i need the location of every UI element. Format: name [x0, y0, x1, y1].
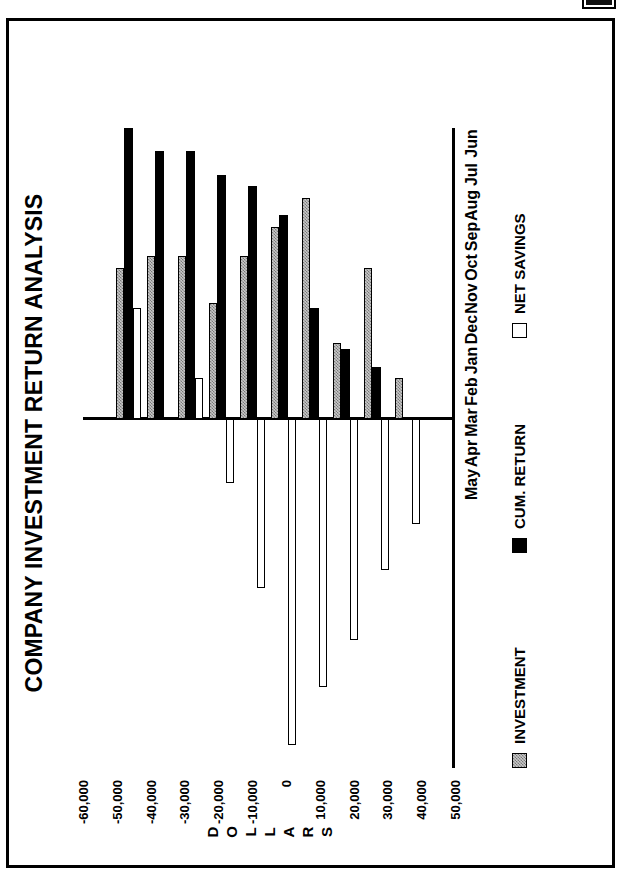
bar-jan-investment	[209, 303, 217, 419]
chart-title: COMPANY INVESTMENT RETURN ANALYSIS	[21, 22, 48, 864]
category-label-dec: Dec	[463, 314, 481, 345]
bar-group	[300, 128, 331, 768]
bar-aug-cumreturn	[372, 367, 380, 419]
bar-oct-investment	[302, 198, 310, 419]
bar-apr-cumreturn	[124, 128, 132, 419]
chart-area: COMPANY INVESTMENT RETURN ANALYSIS DOLLA…	[11, 22, 611, 864]
chart-page: COMPANY INVESTMENT RETURN ANALYSIS DOLLA…	[0, 0, 621, 876]
bar-aug-netsavings	[380, 419, 388, 570]
net-savings-swatch-icon	[512, 323, 527, 338]
y-tick-label: -60,000	[75, 780, 90, 824]
bar-dec-netsavings	[256, 419, 264, 588]
bar-oct-netsavings	[318, 419, 326, 687]
bar-sep-investment	[333, 343, 341, 419]
y-tick-label: 30,000	[379, 780, 394, 820]
bar-group	[269, 128, 300, 768]
y-tick-label: -40,000	[143, 780, 158, 824]
y-tick-label: -20,000	[210, 780, 225, 824]
bar-group	[114, 128, 145, 768]
bar-apr-investment	[116, 268, 124, 419]
bar-group	[238, 128, 269, 768]
category-label-mar: Mar	[463, 407, 481, 438]
bar-mar-cumreturn	[155, 151, 163, 419]
bar-group	[331, 128, 362, 768]
bar-group	[424, 128, 455, 768]
black-square-mark	[582, 0, 616, 9]
y-tick-label: -50,000	[109, 780, 124, 824]
bar-group	[176, 128, 207, 768]
legend-entry: NET SAVINGS	[511, 213, 528, 338]
bar-jul-investment	[395, 378, 403, 419]
category-label-aug: Aug	[463, 190, 481, 221]
bar-nov-investment	[271, 227, 279, 419]
legend-label: CUM. RETURN	[511, 424, 528, 529]
category-label-apr: Apr	[463, 438, 481, 469]
rotated-chart-container: COMPANY INVESTMENT RETURN ANALYSIS DOLLA…	[11, 22, 611, 864]
bar-group	[362, 128, 393, 768]
bar-feb-netsavings	[194, 378, 202, 419]
y-tick-label: 50,000	[447, 780, 462, 820]
category-axis-labels: JunJulAugSepOctNovDecJanFebMarAprMay	[463, 128, 489, 768]
legend-label: NET SAVINGS	[511, 213, 528, 314]
bar-mar-investment	[147, 256, 155, 419]
cum-return-swatch-icon	[512, 538, 527, 553]
bar-group	[393, 128, 424, 768]
category-label-sep: Sep	[463, 221, 481, 252]
legend-label: INVESTMENT	[511, 647, 528, 744]
category-label-jun: Jun	[463, 128, 481, 159]
category-label-may: May	[463, 469, 481, 500]
bar-nov-cumreturn	[279, 215, 287, 419]
y-tick-label: 20,000	[346, 780, 361, 820]
category-label-jul: Jul	[463, 159, 481, 190]
bar-apr-netsavings	[132, 308, 140, 419]
bar-feb-cumreturn	[186, 151, 194, 419]
bar-group	[83, 128, 114, 768]
y-tick-label: -30,000	[176, 780, 191, 824]
category-label-nov: Nov	[463, 283, 481, 314]
page-border-frame: COMPANY INVESTMENT RETURN ANALYSIS DOLLA…	[6, 18, 615, 868]
bar-oct-cumreturn	[310, 308, 318, 419]
y-tick-label: 0	[278, 780, 293, 787]
bar-group	[207, 128, 238, 768]
y-tick-label: 40,000	[413, 780, 428, 820]
bar-dec-investment	[240, 256, 248, 419]
y-tick-label: 10,000	[312, 780, 327, 820]
bar-nov-netsavings	[287, 419, 295, 745]
bar-jul-netsavings	[411, 419, 419, 524]
category-label-oct: Oct	[463, 252, 481, 283]
legend-entry: INVESTMENT	[511, 647, 528, 768]
bar-sep-cumreturn	[341, 349, 349, 419]
bar-aug-investment	[364, 268, 372, 419]
y-tick-label: -10,000	[244, 780, 259, 824]
bar-feb-investment	[178, 256, 186, 419]
y-axis-tick-labels: 50,00040,00030,00020,00010,0000-10,000-2…	[83, 772, 455, 864]
black-square-mark-inner	[584, 0, 614, 7]
plot-area	[83, 128, 455, 768]
chart-legend: INVESTMENTCUM. RETURNNET SAVINGS	[511, 128, 551, 768]
category-label-jan: Jan	[463, 345, 481, 376]
bar-group	[145, 128, 176, 768]
category-label-feb: Feb	[463, 376, 481, 407]
bar-sep-netsavings	[349, 419, 357, 640]
bar-jan-cumreturn	[217, 175, 225, 419]
bar-dec-cumreturn	[248, 186, 256, 419]
investment-swatch-icon	[512, 753, 527, 768]
bar-jan-netsavings	[225, 419, 233, 483]
legend-entry: CUM. RETURN	[511, 424, 528, 553]
